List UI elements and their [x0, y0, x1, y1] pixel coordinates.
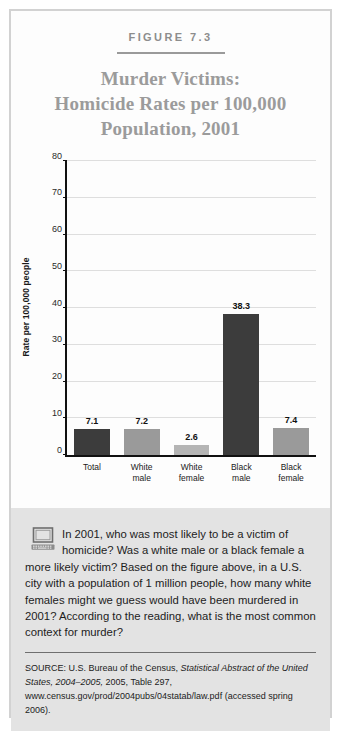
- y-axis-tick-label: 20: [32, 371, 62, 381]
- figure-title-line-1: Murder Victims:: [27, 66, 314, 91]
- bar-value-label: 7.1: [67, 416, 117, 426]
- bar: [174, 445, 210, 455]
- y-axis-tick-label: 40: [32, 298, 62, 308]
- bar-value-label: 7.4: [266, 415, 316, 425]
- y-axis-tick-label: 50: [32, 261, 62, 271]
- bar: [124, 429, 160, 455]
- figure-container: FIGURE 7.3 Murder Victims: Homicide Rate…: [9, 9, 332, 718]
- bar-group: 2.6Whitefemale: [167, 161, 217, 455]
- bar-chart: Rate per 100,000 people 0102030405060708…: [21, 157, 316, 487]
- figure-number-label: FIGURE 7.3: [11, 31, 330, 43]
- y-axis-tick-label: 80: [32, 151, 62, 161]
- figure-title-line-2: Homicide Rates per 100,000: [27, 91, 314, 116]
- bar-value-label: 38.3: [216, 301, 266, 311]
- y-axis-tick-label: 30: [32, 334, 62, 344]
- source-citation: SOURCE: U.S. Bureau of the Census, Stati…: [25, 661, 316, 717]
- bar-group: 7.2Whitemale: [117, 161, 167, 455]
- bar: [74, 429, 110, 455]
- x-axis-tick-label: Blackfemale: [261, 462, 321, 484]
- question-text: In 2001, who was most likely to be a vic…: [25, 526, 316, 641]
- y-axis-tick-label: 0: [32, 445, 62, 455]
- y-axis-title-text: Rate per 100,000 people: [21, 257, 31, 356]
- plot-area: 01020304050607080 7.1Total7.2Whitemale2.…: [65, 161, 316, 457]
- header-divider: [117, 52, 225, 54]
- bar: [223, 314, 259, 455]
- question-panel: In 2001, who was most likely to be a vic…: [11, 508, 330, 731]
- figure-header: FIGURE 7.3: [11, 11, 330, 54]
- bar: [273, 428, 309, 455]
- y-axis-title: Rate per 100,000 people: [19, 157, 33, 457]
- bar-value-label: 2.6: [167, 432, 217, 442]
- bar-group: 7.4Blackfemale: [266, 161, 316, 455]
- y-axis-tick-label: 70: [32, 187, 62, 197]
- source-prefix: SOURCE: U.S. Bureau of the Census,: [25, 663, 181, 673]
- desktop-computer-icon: [31, 527, 57, 551]
- figure-title: Murder Victims: Homicide Rates per 100,0…: [27, 66, 314, 141]
- source-divider: [25, 652, 316, 653]
- bar-value-label: 7.2: [117, 416, 167, 426]
- bar-group: 38.3Blackmale: [216, 161, 266, 455]
- y-axis-tick-label: 60: [32, 224, 62, 234]
- bar-group: 7.1Total: [67, 161, 117, 455]
- figure-title-line-3: Population, 2001: [27, 116, 314, 141]
- bars-group: 7.1Total7.2Whitemale2.6Whitefemale38.3Bl…: [67, 161, 316, 455]
- y-axis-tick-label: 10: [32, 408, 62, 418]
